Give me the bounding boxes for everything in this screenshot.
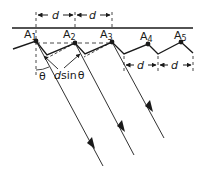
spacing-label-top-1: d bbox=[52, 9, 60, 22]
label-a3: A3 bbox=[100, 28, 113, 42]
ray-from-a2 bbox=[75, 43, 134, 155]
grating-diagram: d d d d A1 A2 A3 A4 A5 θ dsinθ bbox=[0, 0, 206, 176]
label-a4: A4 bbox=[140, 30, 153, 44]
spacing-label-top-2: d bbox=[89, 9, 97, 22]
spacing-label-lower-1: d bbox=[137, 59, 145, 72]
theta-label: θ bbox=[39, 70, 46, 83]
path-diff-pointer-2 bbox=[64, 54, 80, 68]
label-a5: A5 bbox=[174, 29, 187, 43]
label-a1: A1 bbox=[24, 28, 37, 42]
path-difference-label: dsinθ bbox=[54, 69, 85, 82]
path-diff-pointer-1 bbox=[44, 56, 58, 69]
spacing-label-lower-2: d bbox=[171, 59, 179, 72]
label-a2: A2 bbox=[63, 28, 76, 42]
